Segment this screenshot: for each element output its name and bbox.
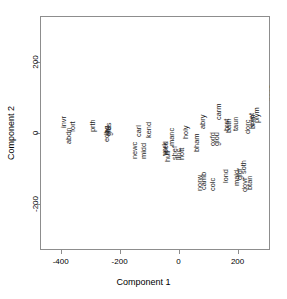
data-point-label: kend (145, 122, 152, 138)
x-axis-tick-label: 200 (231, 258, 244, 266)
data-point-label: soth (240, 160, 247, 174)
data-point-label: holy (182, 125, 189, 139)
data-points-layer: invrabdnfortprthedbgglasstrlcarlnewcmidd… (40, 16, 270, 250)
data-point-label: newc (131, 141, 138, 158)
data-point-label: penz (268, 85, 270, 101)
data-point-label: manc (168, 127, 175, 145)
pca-scatter-plot: invrabdnfortprthedbgglasstrlcarlnewcmidd… (0, 0, 287, 299)
data-point-label: colc (209, 177, 216, 190)
x-axis-tick (179, 250, 180, 254)
data-point-label: strl (104, 126, 111, 136)
data-point-label: fort (69, 121, 76, 132)
data-point-label: plym (253, 108, 260, 124)
data-point-label: abry (199, 115, 206, 129)
x-axis-tick-label: 0 (176, 258, 180, 266)
data-point-label: bham (193, 133, 200, 152)
x-axis-tick (61, 250, 62, 254)
y-axis-tick-label: 200 (32, 55, 40, 68)
x-axis-tick-label: -400 (53, 258, 69, 266)
x-axis-title: Component 1 (0, 277, 287, 287)
data-point-label: taun (232, 116, 239, 130)
x-axis-tick (238, 250, 239, 254)
data-point-label: glou (213, 132, 220, 146)
y-axis-title: Component 2 (6, 106, 16, 160)
data-point-label: camb (200, 171, 207, 189)
y-axis-tick-label: 0 (32, 131, 40, 135)
data-point-label: nott (178, 147, 185, 159)
data-point-label: prth (89, 119, 96, 132)
x-axis-tick (120, 250, 121, 254)
y-axis-tick-label: -200 (32, 196, 40, 212)
x-axis-tick-label: -200 (112, 258, 128, 266)
data-point-label: lond (222, 169, 229, 183)
data-point-label: carm (215, 103, 222, 119)
data-point-label: btan (246, 176, 253, 190)
data-point-label: midd (140, 143, 147, 159)
data-point-label: carl (135, 125, 142, 137)
